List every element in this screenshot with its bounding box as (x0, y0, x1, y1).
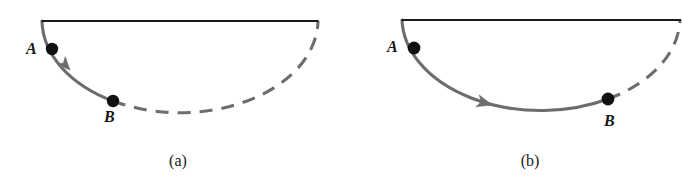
panel-b-point-b-label: B (604, 112, 615, 130)
panel-a-caption: (a) (148, 152, 208, 170)
panel-b-point-a-marker (408, 42, 421, 55)
panel-b-arc-solid (402, 20, 608, 111)
panel-a-point-b-label: B (104, 108, 115, 126)
panel-b-graphics (402, 20, 682, 111)
panel-b-caption: (b) (500, 152, 560, 170)
panel-a-point-b-marker (107, 95, 119, 107)
panel-a-graphics (42, 21, 319, 113)
panel-a-arc-solid (42, 21, 113, 101)
panel-a-arc-dashed (113, 21, 318, 113)
figure-canvas (0, 0, 682, 194)
panel-b-arc-dashed (608, 20, 680, 99)
panel-b-point-b-marker (602, 93, 615, 106)
panel-a-point-a-label: A (26, 40, 37, 58)
panel-b-point-a-label: A (387, 38, 398, 56)
figure-root: A B A B (a) (b) (0, 0, 682, 194)
panel-a-point-a-marker (46, 43, 58, 55)
